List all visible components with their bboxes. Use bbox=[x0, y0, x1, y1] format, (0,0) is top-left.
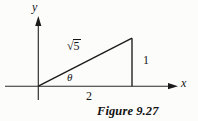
opposite-side-length-label: 1 bbox=[143, 54, 149, 66]
y-axis-label: y bbox=[32, 1, 37, 13]
figure-caption: Figure 9.27 bbox=[97, 104, 159, 119]
adjacent-side-length-label: 2 bbox=[86, 90, 92, 102]
radicand-value: 5 bbox=[73, 39, 81, 52]
angle-theta-label: θ bbox=[67, 72, 72, 83]
triangle-hypotenuse bbox=[38, 38, 132, 86]
y-axis-arrowhead bbox=[35, 16, 41, 26]
x-axis-arrowhead bbox=[168, 83, 178, 89]
x-axis-label: x bbox=[181, 77, 186, 89]
square-root-group: √5 bbox=[67, 38, 81, 52]
coordinate-diagram bbox=[0, 0, 198, 121]
figure-container: y x √5 1 2 θ Figure 9.27 bbox=[0, 0, 198, 121]
hypotenuse-length-label: √5 bbox=[67, 38, 81, 52]
